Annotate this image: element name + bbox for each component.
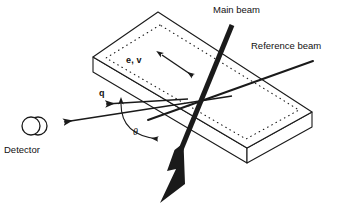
label-scattering-angle: θ [133,127,138,137]
diagram-canvas [0,0,339,210]
label-detector: Detector [4,145,40,155]
label-main-beam: Main beam [213,5,260,15]
label-scattering-vector: q [99,89,105,98]
scattering-geometry-figure: Main beam Reference beam Detector e, v q… [0,0,339,210]
main-beam-arrowhead [160,143,185,203]
detector-icon [22,117,47,135]
label-reference-beam: Reference beam [251,41,321,51]
sample-slab [93,12,312,163]
scattering-angle-arc [121,104,158,139]
label-polarization-velocity: e, v [126,56,142,65]
label-leader-lines [227,15,233,23]
